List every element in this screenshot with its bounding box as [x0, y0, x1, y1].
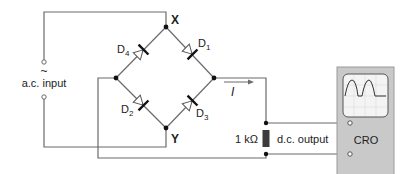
ac-input-label: a.c. input [22, 77, 67, 89]
bridge-rectifier-diagram: ~ a.c. input X Y D4 D1 D2 D3 I [0, 0, 414, 174]
node-x-label: X [171, 13, 179, 27]
diode-d3-label: D3 [196, 107, 209, 122]
ac-symbol: ~ [40, 64, 47, 78]
cro-terminal-top [348, 121, 352, 125]
diode-d2-label: D2 [121, 103, 134, 118]
resistor [263, 130, 270, 147]
dc-output-label: d.c. output [277, 133, 328, 145]
diode-d4-label: D4 [117, 43, 130, 58]
ac-terminal-bottom [42, 95, 46, 99]
cro [337, 67, 394, 174]
node-y-label: Y [171, 132, 179, 146]
diode-d1-label: D1 [198, 37, 211, 52]
current-arrow [224, 80, 254, 85]
cro-label: CRO [354, 134, 379, 146]
resistor-label: 1 kΩ [235, 133, 258, 145]
cro-terminal-bottom [348, 152, 352, 156]
current-label: I [231, 85, 235, 99]
